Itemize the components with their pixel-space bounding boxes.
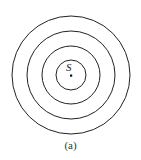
- source-label: S: [66, 61, 72, 73]
- source-point: [70, 75, 72, 77]
- figure-caption: (a): [0, 139, 141, 151]
- concentric-wavefronts: [0, 0, 141, 160]
